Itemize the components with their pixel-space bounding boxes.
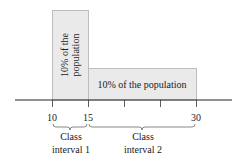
bar1-label-line2: population [70, 34, 81, 77]
histogram-diagram: 10% of the population 10% of the populat… [0, 0, 243, 161]
tick-label-30: 30 [191, 112, 201, 123]
axis-ticks [53, 100, 197, 107]
class-interval-2-line1: Class [132, 131, 154, 142]
tick-label-15: 15 [83, 112, 93, 123]
bar1-label-line1: 10% of the [59, 33, 70, 77]
bar2-label: 10% of the population [97, 79, 186, 90]
brace-class-interval-2 [89, 124, 195, 130]
brace-class-interval-1 [53, 124, 87, 130]
tick-label-10: 10 [47, 112, 57, 123]
class-interval-1-line1: Class [60, 131, 82, 142]
class-interval-2-line2: interval 2 [124, 144, 162, 155]
class-interval-1-line2: interval 1 [52, 144, 90, 155]
